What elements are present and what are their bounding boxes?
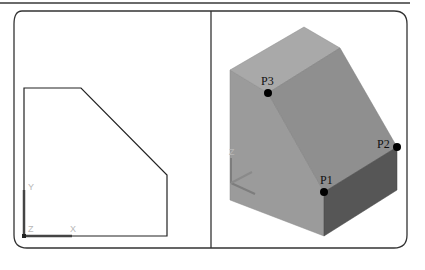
point-p2: P2 <box>377 137 401 151</box>
point-p1-label: P1 <box>320 173 333 187</box>
ucs-z-label: Z <box>28 224 34 234</box>
profile-outline <box>24 88 167 236</box>
ucs-z-label-3d: Z <box>229 147 235 157</box>
ucs-x-label: X <box>70 224 76 234</box>
ucs-icon-2d: Y X Z <box>22 182 76 238</box>
point-p2-label: P2 <box>377 137 390 151</box>
right-view: Z P3 P2 P1 <box>229 27 401 236</box>
figure-canvas: Y X Z Z P3 P2 P1 <box>0 0 425 270</box>
point-p3-label: P3 <box>261 74 274 88</box>
ucs-y-label: Y <box>28 182 34 192</box>
left-view: Y X Z <box>22 88 167 238</box>
